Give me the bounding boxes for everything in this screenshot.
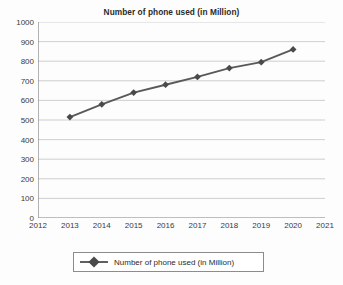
y-tick-label: 700 — [2, 76, 34, 85]
y-axis: 01002003004005006007008009001000 — [0, 22, 34, 218]
x-tick-label: 2013 — [61, 221, 79, 230]
x-tick-label: 2016 — [157, 221, 175, 230]
chart-title: Number of phone used (in Million) — [0, 7, 343, 17]
data-point-marker — [258, 59, 265, 66]
plot-svg — [38, 22, 325, 218]
chart-container: Number of phone used (in Million) 010020… — [0, 0, 343, 285]
y-tick-label: 600 — [2, 96, 34, 105]
data-point-marker — [130, 89, 137, 96]
data-point-marker — [162, 81, 169, 88]
y-tick-label: 300 — [2, 155, 34, 164]
x-axis: 2012201320142015201620172018201920202021 — [38, 221, 325, 237]
chart-legend: Number of phone used (in Million) — [73, 252, 264, 272]
y-tick-label: 1000 — [2, 18, 34, 27]
x-tick-label: 2018 — [220, 221, 238, 230]
y-tick-label: 200 — [2, 174, 34, 183]
data-point-marker — [66, 114, 73, 121]
x-tick-label: 2014 — [93, 221, 111, 230]
y-tick-label: 900 — [2, 37, 34, 46]
y-tick-label: 500 — [2, 116, 34, 125]
data-point-marker — [98, 101, 105, 108]
y-tick-label: 100 — [2, 194, 34, 203]
y-tick-label: 800 — [2, 57, 34, 66]
x-tick-label: 2021 — [316, 221, 334, 230]
x-tick-label: 2012 — [29, 221, 47, 230]
x-tick-label: 2015 — [125, 221, 143, 230]
data-line-series-0 — [70, 49, 293, 117]
gridlines — [38, 22, 325, 198]
y-tick-label: 400 — [2, 135, 34, 144]
data-point-marker — [226, 65, 233, 72]
plot-area — [38, 22, 325, 218]
diamond-marker-icon — [74, 252, 114, 272]
data-point-marker — [194, 73, 201, 80]
x-tick-label: 2017 — [189, 221, 207, 230]
x-tick-label: 2020 — [284, 221, 302, 230]
data-markers — [66, 46, 296, 120]
legend-label: Number of phone used (in Million) — [114, 258, 234, 267]
data-point-marker — [290, 46, 297, 53]
x-tick-label: 2019 — [252, 221, 270, 230]
